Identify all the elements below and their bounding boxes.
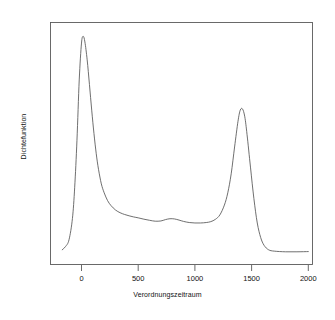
plot-canvas: 0 500 1000 1500 2000 (0, 0, 335, 320)
x-tick-label-1500: 1500 (243, 274, 260, 283)
x-tick-label-1000: 1000 (187, 274, 204, 283)
x-tick-label-500: 500 (132, 274, 145, 283)
density-plot-figure: 0 500 1000 1500 2000 Verordnungszeitraum… (0, 0, 335, 320)
x-axis-title: Verordnungszeitraum (0, 291, 335, 298)
x-tick-label-2000: 2000 (300, 274, 317, 283)
y-axis-title: Dichtefunktion (20, 92, 27, 182)
x-tick-label-0: 0 (79, 274, 83, 283)
